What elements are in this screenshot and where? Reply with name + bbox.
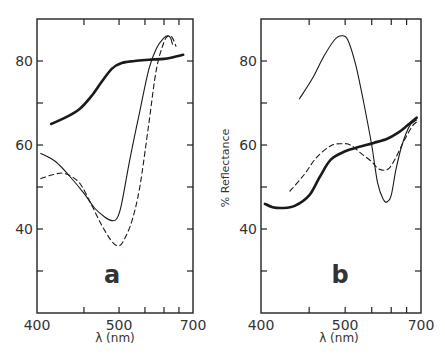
x-tick-label: 700 [408,317,435,333]
x-tick-label: 400 [24,317,51,333]
panel-a: 406080400500700 a λ (nm) [15,19,206,345]
panel-b-curves [265,36,417,208]
curve-thin-solid [300,36,417,202]
panel-a-curves [41,36,183,246]
y-tick-label: 40 [239,221,257,237]
figure: 406080400500700 a λ (nm) 406080400500700… [0,0,445,358]
y-tick-label: 60 [239,137,257,153]
y-tick-label: 40 [15,221,33,237]
reflectance-chart: 406080400500700 a λ (nm) 406080400500700… [0,0,445,358]
panel-b: 406080400500700 b λ (nm) % Reflectance [219,19,434,345]
panel-b-label: b [331,261,348,289]
curve-thin-solid [41,36,173,221]
panel-b-xlabel: λ (nm) [319,331,359,345]
figure-caption-cutoff [26,350,445,358]
curve-thick-solid [265,118,417,208]
y-tick-label: 80 [15,53,33,69]
panel-a-xlabel: λ (nm) [95,331,135,345]
y-tick-label: 60 [15,137,33,153]
x-tick-label: 400 [248,317,275,333]
panel-a-label: a [104,261,120,289]
x-tick-label: 700 [180,317,207,333]
curve-thick-solid [51,55,183,124]
y-axis-label: % Reflectance [219,129,232,208]
y-tick-label: 80 [239,53,257,69]
curve-dashed [41,36,176,246]
